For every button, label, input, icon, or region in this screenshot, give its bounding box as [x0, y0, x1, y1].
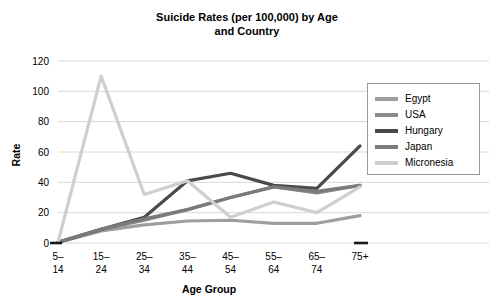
- legend-color-swatch: [375, 97, 398, 101]
- x-tick-label: 14: [52, 264, 64, 275]
- x-tick-label: 64: [268, 264, 280, 275]
- y-tick-label: 40: [38, 177, 50, 188]
- legend-item-hungary[interactable]: Hungary: [368, 123, 479, 139]
- legend-color-swatch: [375, 129, 398, 133]
- series-line-usa: [58, 185, 360, 242]
- x-tick-label: 75+: [352, 251, 369, 262]
- y-tick-label: 0: [43, 238, 49, 249]
- series-line-micronesia: [58, 76, 360, 242]
- y-tick-label: 100: [32, 86, 49, 97]
- x-tick-label: 35–: [179, 251, 196, 262]
- legend-item-label: Japan: [405, 139, 432, 155]
- y-tick-label: 60: [38, 147, 50, 158]
- chart-container: Suicide Rates (per 100,000) by Age and C…: [0, 0, 494, 303]
- x-axis-title: Age Group: [182, 283, 236, 295]
- legend-color-swatch: [375, 145, 398, 149]
- y-tick-label: 80: [38, 116, 50, 127]
- legend-item-label: Egypt: [405, 91, 431, 107]
- legend-item-label: Hungary: [405, 123, 443, 139]
- x-tick-label: 15–: [93, 251, 110, 262]
- x-tick-label: 44: [182, 264, 194, 275]
- y-tick-label: 20: [38, 207, 50, 218]
- legend-item-egypt[interactable]: Egypt: [368, 91, 479, 107]
- x-tick-label: 74: [311, 264, 323, 275]
- x-tick-label: 65–: [309, 251, 326, 262]
- legend-item-label: Micronesia: [405, 155, 453, 171]
- y-axis-tick-labels: 020406080100120: [32, 56, 49, 249]
- y-axis-title: Rate: [10, 143, 22, 166]
- x-tick-label: 54: [225, 264, 237, 275]
- x-tick-label: 55–: [265, 251, 282, 262]
- x-tick-label: 34: [139, 264, 151, 275]
- legend-item-label: USA: [405, 107, 426, 123]
- x-tick-label: 24: [96, 264, 108, 275]
- legend-item-micronesia[interactable]: Micronesia: [368, 155, 479, 171]
- legend-item-usa[interactable]: USA: [368, 107, 479, 123]
- legend-color-swatch: [375, 161, 398, 165]
- legend-item-japan[interactable]: Japan: [368, 139, 479, 155]
- x-tick-label: 25–: [136, 251, 153, 262]
- data-series-group: [58, 76, 360, 242]
- x-tick-label: 5–: [52, 251, 64, 262]
- x-axis-tick-labels: 5–1415–2425–3435–4445–5455–6465–7475+: [52, 251, 368, 275]
- x-tick-label: 45–: [222, 251, 239, 262]
- y-tick-label: 120: [32, 56, 49, 67]
- legend-color-swatch: [375, 113, 398, 117]
- chart-legend: EgyptUSAHungaryJapanMicronesia: [367, 83, 480, 175]
